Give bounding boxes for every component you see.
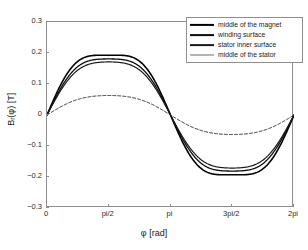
x-tick-label: pi	[167, 210, 173, 218]
y-tick-mark	[46, 114, 49, 115]
x-tick-mark	[46, 204, 47, 207]
y-tick-label: 0.3	[0, 17, 42, 25]
legend-label: winding surface	[215, 30, 265, 40]
series-line	[47, 95, 294, 134]
legend-line-icon	[189, 20, 215, 30]
legend-line-icon	[189, 50, 215, 60]
y-tick-mark	[46, 21, 49, 22]
legend-label: middle of the magnet	[215, 20, 281, 30]
x-tick-label: 2pi	[288, 210, 298, 218]
x-tick-mark	[170, 204, 171, 207]
y-axis-label-rest: (φ) [T]	[6, 93, 16, 118]
legend: middle of the magnetwinding surfacestato…	[186, 17, 303, 63]
y-tick-mark	[46, 145, 49, 146]
y-tick-mark	[46, 176, 49, 177]
x-tick-mark	[293, 204, 294, 207]
x-axis-label: φ [rad]	[0, 228, 308, 238]
y-tick-label: 0.2	[0, 48, 42, 56]
x-tick-mark	[108, 204, 109, 207]
legend-line-icon	[189, 40, 215, 50]
legend-label: stator inner surface	[215, 40, 276, 50]
legend-label: middle of the stator	[215, 50, 276, 60]
x-tick-label: 3pi/2	[223, 210, 239, 218]
y-tick-mark	[46, 83, 49, 84]
y-tick-label: −0.2	[0, 172, 42, 180]
legend-line-icon	[189, 30, 215, 40]
legend-item[interactable]: winding surface	[189, 30, 299, 40]
legend-item[interactable]: middle of the magnet	[189, 20, 299, 30]
y-axis-label: Br(φ) [T]	[6, 72, 17, 146]
y-axis-label-subscript: r	[9, 118, 16, 120]
x-tick-label: 0	[44, 210, 48, 218]
chart-figure: 0.30.20.10−0.1−0.2−0.3 0pi/2pi3pi/22pi φ…	[0, 0, 308, 250]
x-tick-label: pi/2	[102, 210, 114, 218]
x-tick-mark	[231, 204, 232, 207]
legend-item[interactable]: stator inner surface	[189, 40, 299, 50]
legend-item[interactable]: middle of the stator	[189, 50, 299, 60]
y-tick-label: −0.3	[0, 203, 42, 211]
y-tick-mark	[46, 207, 49, 208]
y-tick-mark	[46, 52, 49, 53]
y-axis-label-main: B	[6, 120, 16, 126]
